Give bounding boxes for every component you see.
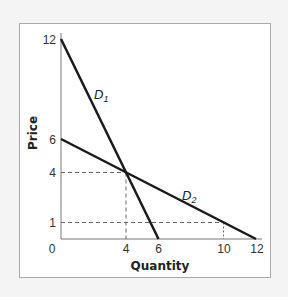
x-tick-4: 4 [123, 242, 130, 256]
origin-label: 0 [49, 242, 56, 256]
d1-curve [61, 39, 159, 239]
d2-label: D2 [182, 188, 196, 205]
x-axis-label: Quantity [131, 259, 190, 273]
y-tick-6: 6 [49, 133, 56, 147]
x-tick-12: 12 [250, 242, 264, 256]
y-tick-4: 4 [49, 166, 56, 180]
d1-label: D1 [94, 87, 108, 104]
x-tick-6: 6 [155, 242, 162, 256]
y-axis-label: Price [26, 116, 40, 150]
demand-chart: D1 D2 12 6 4 1 0 4 6 10 12 Quantity Pric… [0, 0, 288, 297]
x-tick-10: 10 [217, 242, 231, 256]
y-tick-1: 1 [49, 216, 56, 230]
d2-curve [61, 139, 256, 239]
y-tick-12: 12 [43, 33, 57, 47]
